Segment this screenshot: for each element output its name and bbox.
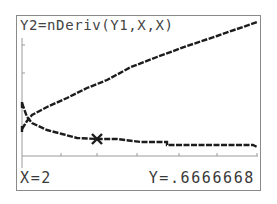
curve-y1	[22, 22, 257, 129]
trace-x-value: X=2	[20, 169, 52, 187]
graph-canvas	[17, 16, 260, 190]
calculator-screen: Y2=nDeriv(Y1,X,X) X=2 Y=.6666668	[16, 15, 261, 191]
curve-y2-derivative	[22, 103, 257, 147]
trace-y-value: Y=.6666668	[149, 169, 255, 187]
equation-label: Y2=nDeriv(Y1,X,X)	[20, 17, 175, 33]
